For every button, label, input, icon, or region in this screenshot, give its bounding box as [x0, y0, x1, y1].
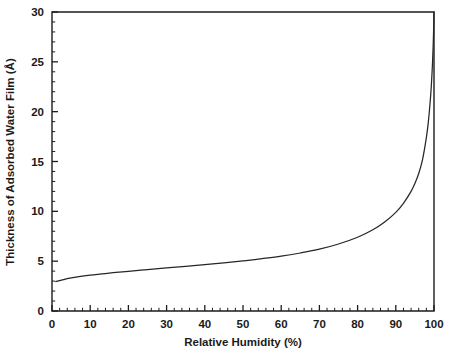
y-tick-label: 10 — [31, 205, 44, 217]
x-tick-label: 0 — [49, 318, 55, 330]
x-tick-label: 10 — [84, 318, 97, 330]
x-tick-label: 80 — [351, 318, 364, 330]
x-tick-label: 30 — [160, 318, 173, 330]
x-tick-label: 90 — [389, 318, 402, 330]
x-tick-label: 40 — [198, 318, 211, 330]
x-tick-label: 20 — [122, 318, 135, 330]
y-tick-label: 25 — [31, 56, 44, 68]
x-axis-title: Relative Humidity (%) — [184, 336, 302, 348]
y-tick-label: 0 — [38, 305, 44, 317]
plot-area: 0102030405060708090100 051015202530 Rela… — [0, 0, 454, 353]
y-axis-title: Thickness of Adsorbed Water Film (Å) — [4, 58, 16, 266]
x-tick-label: 100 — [424, 318, 443, 330]
y-tick-label: 15 — [31, 156, 44, 168]
chart-background — [0, 0, 454, 353]
y-tick-label: 5 — [38, 255, 45, 267]
x-tick-label: 50 — [237, 318, 250, 330]
chart-figure: 0102030405060708090100 051015202530 Rela… — [0, 0, 454, 353]
y-tick-label: 20 — [31, 106, 44, 118]
y-tick-label: 30 — [31, 6, 44, 18]
x-tick-label: 60 — [275, 318, 288, 330]
x-tick-label: 70 — [313, 318, 326, 330]
